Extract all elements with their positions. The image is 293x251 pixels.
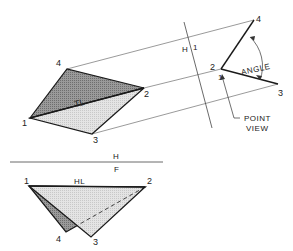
fold-label-1: 1 [193, 43, 198, 52]
horizontal-line-label: HL [74, 177, 85, 186]
top-label-4: 4 [56, 58, 61, 68]
aux-label-3: 3 [278, 88, 283, 98]
dihedral-angle-diagram: H 1 1 4 2 3 TL 4 2 1 3 ANGLE POINT VIEW … [0, 0, 293, 251]
aux-label-4: 4 [256, 14, 261, 24]
fold-label-f-bottom: F [114, 165, 119, 174]
aux-label-2: 2 [210, 62, 215, 72]
point-view-leader [222, 76, 240, 118]
horizontal-line-edge [29, 186, 145, 187]
top-label-1: 1 [22, 118, 27, 128]
fold-label-h-top: H [113, 152, 119, 161]
front-label-2: 2 [147, 176, 152, 186]
top-label-2: 2 [144, 89, 149, 99]
top-label-3: 3 [93, 135, 98, 145]
plane-light-face-front [29, 186, 145, 237]
angle-arrow-top [250, 36, 255, 41]
front-label-1: 1 [24, 176, 29, 186]
front-label-3: 3 [93, 237, 98, 247]
front-view: 1 2 4 3 HL [24, 176, 152, 247]
point-view-label-1: POINT [244, 114, 271, 123]
fold-line-h1 [184, 22, 212, 128]
aux-view: 4 2 1 3 ANGLE POINT VIEW [210, 14, 283, 133]
fold-label-h: H [182, 45, 188, 54]
front-label-4: 4 [56, 234, 61, 244]
top-view: 1 4 2 3 TL [22, 58, 149, 145]
angle-label: ANGLE [240, 62, 271, 77]
point-view-label-2: VIEW [246, 124, 268, 133]
